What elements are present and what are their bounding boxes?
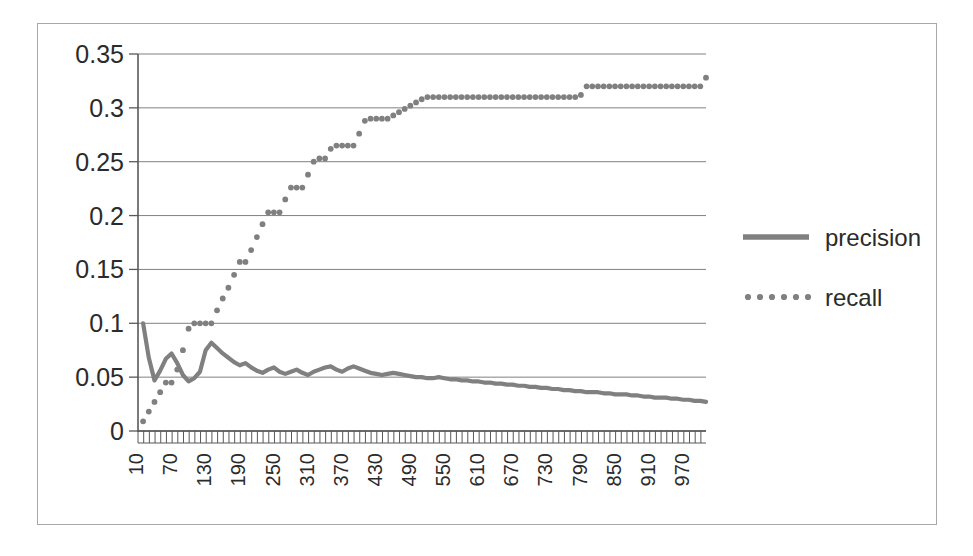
xtick-label-13: 790 (569, 453, 591, 486)
data-point (419, 96, 425, 102)
data-point (248, 247, 254, 253)
data-point (351, 143, 357, 149)
data-point (231, 272, 237, 278)
data-point (328, 146, 334, 152)
data-point (339, 143, 345, 149)
data-point (430, 94, 436, 100)
data-point (282, 197, 288, 203)
data-point (254, 234, 260, 240)
data-point (379, 116, 385, 122)
data-point (174, 367, 180, 373)
xtick-label-15: 910 (637, 453, 659, 486)
data-point (436, 94, 442, 100)
data-point (680, 83, 686, 89)
data-point (601, 83, 607, 89)
data-point (572, 94, 578, 100)
data-point (584, 83, 590, 89)
data-point (396, 109, 402, 115)
data-point (356, 131, 362, 137)
legend-swatch-dot-recall (757, 294, 763, 300)
data-point (140, 418, 146, 424)
data-point (271, 209, 277, 215)
data-point (658, 83, 664, 89)
data-point (299, 185, 305, 191)
data-point (459, 94, 465, 100)
chart-canvas: 00.050.10.150.20.250.30.3510701301902503… (38, 24, 936, 524)
data-point (191, 320, 197, 326)
data-point (442, 94, 448, 100)
data-point (402, 106, 408, 112)
ytick-label-3: 0.15 (75, 255, 124, 283)
xtick-label-5: 310 (296, 453, 318, 486)
data-point (533, 94, 539, 100)
legend-swatch-dot-recall (805, 294, 811, 300)
series-dots-recall (140, 75, 709, 424)
data-point (487, 94, 493, 100)
legend-swatch-dot-recall (745, 294, 751, 300)
data-point (260, 221, 266, 227)
xtick-label-10: 610 (466, 453, 488, 486)
data-point (208, 320, 214, 326)
data-point (578, 92, 584, 98)
xtick-label-16: 970 (671, 453, 693, 486)
data-point (504, 94, 510, 100)
data-point (368, 116, 374, 122)
data-point (692, 83, 698, 89)
data-point (277, 209, 283, 215)
ytick-label-0: 0 (110, 417, 124, 445)
data-point (265, 209, 271, 215)
legend-label-precision: precision (825, 224, 921, 251)
xtick-label-8: 490 (398, 453, 420, 486)
data-point (561, 94, 567, 100)
data-point (697, 83, 703, 89)
data-point (425, 94, 431, 100)
xtick-label-9: 550 (432, 453, 454, 486)
data-point (146, 409, 152, 415)
data-point (413, 100, 419, 106)
data-point (243, 259, 249, 265)
legend-swatch-dot-recall (781, 294, 787, 300)
xtick-label-2: 130 (193, 453, 215, 486)
legend-group: precisionrecall (743, 224, 921, 311)
data-point (538, 94, 544, 100)
data-point (606, 83, 612, 89)
data-point (521, 94, 527, 100)
data-point (703, 75, 709, 81)
ytick-label-4: 0.2 (89, 202, 124, 230)
data-point (316, 156, 322, 162)
data-point (470, 94, 476, 100)
data-point (498, 94, 504, 100)
data-point (476, 94, 482, 100)
series-line-precision (143, 323, 706, 402)
x-tick-labels-group: 1070130190250310370430490550610670730790… (125, 453, 693, 486)
data-point (311, 159, 317, 165)
data-point (527, 94, 533, 100)
series-group (140, 75, 709, 424)
data-point (618, 83, 624, 89)
chart-figure: 00.050.10.150.20.250.30.3510701301902503… (37, 23, 937, 525)
data-point (226, 285, 232, 291)
data-point (675, 83, 681, 89)
data-point (544, 94, 550, 100)
data-point (663, 83, 669, 89)
xtick-label-6: 370 (330, 453, 352, 486)
data-point (169, 380, 175, 386)
ytick-label-6: 0.3 (89, 94, 124, 122)
data-point (220, 296, 226, 302)
data-point (589, 83, 595, 89)
data-point (334, 143, 340, 149)
data-point (453, 94, 459, 100)
xtick-label-11: 670 (500, 453, 522, 486)
data-point (152, 399, 158, 405)
ytick-label-5: 0.25 (75, 148, 124, 176)
data-point (481, 94, 487, 100)
data-point (555, 94, 561, 100)
data-point (390, 113, 396, 119)
data-point (567, 94, 573, 100)
data-point (288, 185, 294, 191)
legend-label-recall: recall (825, 284, 882, 311)
xtick-label-7: 430 (364, 453, 386, 486)
data-point (322, 156, 328, 162)
data-point (612, 83, 618, 89)
data-point (180, 347, 186, 353)
